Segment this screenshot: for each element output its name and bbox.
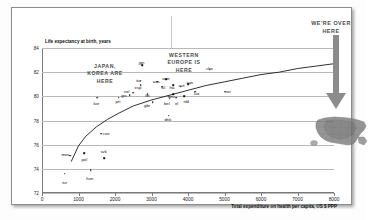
y-tick-label: 72	[34, 191, 39, 196]
x-tick-mark	[334, 193, 335, 196]
annotation-us-callout: WE'RE OVER HERE	[295, 19, 367, 35]
point-label-nor: nor	[225, 89, 231, 94]
annotation-weurope-line3: HERE	[152, 67, 216, 74]
point-label-aut: aut	[179, 83, 185, 88]
point-label-deu: deu	[168, 94, 175, 99]
y-tick-label: 84	[34, 46, 39, 51]
annotation-western-europe: WESTERN EUROPE IS HERE	[152, 52, 216, 74]
point-label-can: can	[186, 80, 193, 85]
point-label-fra: fra	[170, 85, 175, 90]
x-tick-mark	[152, 193, 153, 196]
x-tick-mark	[79, 193, 80, 196]
point-label-fin: fin	[145, 93, 149, 98]
data-point-hun	[90, 169, 92, 171]
x-tick-label: 7000	[292, 197, 303, 202]
y-tick-label: 76	[34, 142, 39, 147]
point-label-gbr: gbr	[144, 103, 150, 108]
usa-map-icon	[308, 112, 370, 154]
point-label-cze: cze	[103, 131, 110, 136]
data-point-kor	[97, 97, 99, 99]
data-point-mex	[69, 155, 71, 157]
point-label-lux: lux	[194, 91, 199, 96]
x-axis-title: Total expenditure on health per capita, …	[231, 204, 337, 209]
annotation-us-line2: HERE	[295, 27, 367, 35]
data-point-gbr	[152, 102, 154, 104]
point-label-nld: nld	[183, 99, 189, 104]
x-tick-label: 8000	[329, 197, 340, 202]
data-point-nzl	[132, 92, 134, 94]
point-label-irl: irl	[175, 101, 178, 106]
x-tick-label: 2000	[110, 197, 121, 202]
x-tick-label: 4000	[183, 197, 194, 202]
point-label-hun: hun	[86, 176, 93, 181]
annotation-japan-line3: HERE	[70, 78, 140, 85]
x-tick-label: 6000	[256, 197, 267, 202]
annotation-japan-line1: JAPAN,	[70, 63, 140, 70]
annotation-us-line1: WE'RE OVER	[295, 19, 367, 27]
y-tick-label: 78	[34, 118, 39, 123]
point-label-bel: bel	[164, 101, 170, 106]
y-tick-label: 82	[34, 70, 39, 75]
data-point-tur	[64, 173, 66, 175]
point-label-esp: esp	[135, 85, 142, 90]
data-point-pol	[83, 152, 85, 154]
point-label-svk: svk	[101, 149, 107, 154]
x-tick-label: 1000	[73, 197, 84, 202]
x-tick-mark	[298, 193, 299, 196]
x-tick-label: 0	[41, 197, 44, 202]
down-arrow-icon	[324, 35, 348, 111]
point-label-prt: prt	[115, 99, 120, 104]
point-label-mex: mex	[61, 152, 69, 157]
point-label-dnk: dnk	[165, 117, 172, 122]
annotation-weurope-line2: EUROPE IS	[152, 59, 216, 66]
y-axis-title: Life expectancy at birth, years	[45, 39, 111, 44]
slide-frame: Life expectancy at birth, years Total ex…	[11, 7, 352, 205]
top-guide-line	[171, 16, 172, 49]
x-tick-mark	[188, 193, 189, 196]
data-point-grc	[129, 94, 131, 96]
data-point-irl	[176, 97, 178, 99]
annotation-japan-korea: JAPAN, KOREA ARE HERE	[70, 63, 140, 85]
annotation-weurope-line1: WESTERN	[152, 52, 216, 59]
point-label-kor: kor	[93, 101, 99, 106]
point-label-nzl: nzl	[124, 89, 129, 94]
point-label-swe: swe	[162, 76, 170, 81]
data-point-svk	[103, 157, 105, 159]
point-label-pol: pol	[82, 157, 88, 162]
y-tick-label: 74	[34, 166, 39, 171]
point-label-tur: tur	[62, 180, 67, 185]
x-tick-label: 3000	[146, 197, 157, 202]
x-tick-mark	[42, 193, 43, 196]
data-point-nld	[184, 96, 186, 98]
x-tick-label: 5000	[219, 197, 230, 202]
x-tick-mark	[261, 193, 262, 196]
x-tick-mark	[115, 193, 116, 196]
point-label-isl: isl	[161, 85, 165, 90]
x-tick-mark	[225, 193, 226, 196]
y-tick-label: 80	[34, 94, 39, 99]
annotation-japan-line2: KOREA ARE	[70, 70, 140, 77]
point-label-aus: aus	[153, 79, 160, 84]
